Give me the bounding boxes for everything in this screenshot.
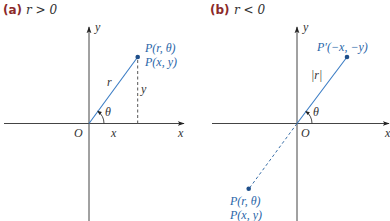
origin-label: O <box>74 126 83 140</box>
angle-arc-icon <box>306 112 312 124</box>
angle-label: θ <box>313 105 319 119</box>
origin-label: O <box>301 126 310 140</box>
point-cartesian-label: P(x, y) <box>144 55 177 69</box>
y-axis-label: y <box>94 20 101 34</box>
point-polar-label: P(r, θ) <box>229 194 261 208</box>
x-axis-label: x <box>177 126 184 140</box>
point-p-prime <box>345 55 350 60</box>
point-polar-label: P(r, θ) <box>144 41 176 55</box>
panel-a-label: (a) <box>3 3 22 17</box>
angle-arc-icon <box>98 111 104 123</box>
radius-label: r <box>107 75 112 89</box>
panel-a: (a) r > 0 x y O θ r x y P(r, θ) P(x, y) <box>3 3 184 221</box>
point-p <box>135 55 140 60</box>
radius-ray <box>297 57 347 124</box>
panel-b-condition: r < 0 <box>234 3 265 17</box>
panel-a-condition: r > 0 <box>26 3 57 17</box>
polar-coordinates-figure: (a) r > 0 x y O θ r x y P(r, θ) P(x, y) … <box>0 0 390 221</box>
radius-ray <box>89 57 138 124</box>
reflected-point-label: P′(−x, −y) <box>316 40 368 54</box>
point-cartesian-label: P(x, y) <box>229 208 262 221</box>
panel-b-label: (b) <box>210 3 230 17</box>
vertical-label: y <box>140 82 147 96</box>
horizontal-label: x <box>110 126 117 140</box>
y-axis-label: y <box>302 20 309 34</box>
extension-dashed-line <box>249 124 297 189</box>
radius-abs-label: |r| <box>311 68 322 82</box>
panel-b: (b) r < 0 x y O θ |r| P′(−x, −y) P(r, θ)… <box>210 3 390 221</box>
x-axis-label: x <box>384 126 390 140</box>
point-p <box>246 186 251 191</box>
angle-label: θ <box>105 105 111 119</box>
